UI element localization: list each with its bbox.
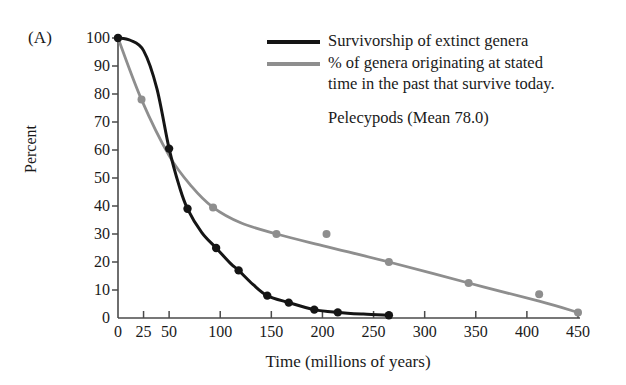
data-point-marker bbox=[323, 230, 331, 238]
legend-label-line2: time in the past that survive today. bbox=[328, 73, 555, 94]
legend-swatch-black-line-icon bbox=[267, 40, 320, 44]
legend-label-line1: Survivorship of extinct genera bbox=[328, 31, 528, 50]
legend-label: % of genera originating at stated time i… bbox=[328, 52, 555, 94]
data-point-marker bbox=[114, 34, 122, 42]
legend-label-line1: % of genera originating at stated bbox=[328, 53, 543, 72]
data-point-marker bbox=[138, 96, 146, 104]
data-point-marker bbox=[183, 205, 191, 213]
data-point-marker bbox=[574, 308, 582, 316]
legend-swatch-gray-line-icon bbox=[267, 62, 320, 66]
data-point-marker bbox=[234, 266, 242, 274]
data-point-marker bbox=[165, 144, 173, 152]
data-point-marker bbox=[285, 298, 293, 306]
data-point-marker bbox=[465, 279, 473, 287]
data-point-marker bbox=[212, 244, 220, 252]
data-point-marker bbox=[263, 291, 271, 299]
chart-legend: Survivorship of extinct genera % of gene… bbox=[267, 30, 607, 95]
data-point-marker bbox=[209, 203, 217, 211]
legend-item: % of genera originating at stated time i… bbox=[267, 52, 607, 94]
chart-annotation: Pelecypods (Mean 78.0) bbox=[328, 108, 489, 128]
data-point-marker bbox=[385, 258, 393, 266]
data-point-marker bbox=[385, 311, 393, 319]
data-point-marker bbox=[310, 305, 318, 313]
legend-item: Survivorship of extinct genera bbox=[267, 30, 607, 51]
data-point-marker bbox=[535, 290, 543, 298]
chart-figure: (A) Percent Time (millions of years) 010… bbox=[0, 0, 626, 385]
data-point-marker bbox=[272, 230, 280, 238]
legend-label: Survivorship of extinct genera bbox=[328, 30, 528, 51]
data-point-marker bbox=[334, 308, 342, 316]
